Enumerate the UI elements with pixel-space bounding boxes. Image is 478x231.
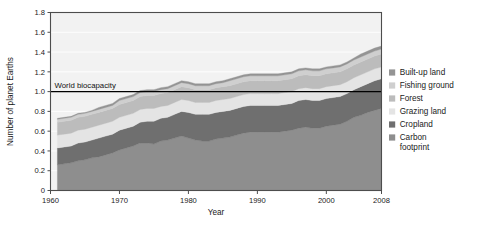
- legend-label: Forest: [400, 94, 424, 103]
- y-tick-label: 1.4: [34, 48, 45, 57]
- legend-swatch: [389, 82, 395, 88]
- x-tick-label: 1980: [180, 196, 197, 205]
- ecological-footprint-chart: World biocapacity00.20.40.60.81.01.21.41…: [0, 0, 478, 231]
- x-tick-label: 1970: [111, 196, 128, 205]
- x-tick-label: 2008: [373, 196, 390, 205]
- y-tick-label: 0: [41, 186, 45, 195]
- y-tick-label: 0.2: [34, 166, 45, 175]
- legend-swatch: [389, 69, 395, 75]
- legend-swatch: [389, 134, 395, 140]
- chart-canvas: World biocapacity00.20.40.60.81.01.21.41…: [0, 0, 478, 231]
- y-tick-label: 0.4: [34, 147, 45, 156]
- y-tick-label: 1.2: [34, 68, 45, 77]
- legend-label: Fishing ground: [400, 81, 455, 90]
- y-tick-label: 0.8: [34, 107, 45, 116]
- y-tick-label: 1.6: [34, 28, 45, 37]
- y-tick-label: 0.6: [34, 127, 45, 136]
- y-tick-label: 1.8: [34, 8, 45, 17]
- y-tick-label: 1.0: [34, 87, 45, 96]
- legend-swatch: [389, 108, 395, 114]
- x-tick-label: 2000: [318, 196, 335, 205]
- legend-label: Cropland: [400, 120, 434, 129]
- x-axis-title: Year: [208, 208, 225, 217]
- x-tick-label: 1960: [42, 196, 59, 205]
- world-biocapacity-label: World biocapacity: [55, 81, 116, 90]
- legend-label: Carbon: [400, 133, 427, 142]
- y-axis-title: Number of planet Earths: [6, 57, 15, 146]
- legend-label-cont: footprint: [400, 143, 430, 152]
- legend-label: Built-up land: [400, 68, 446, 77]
- x-tick-label: 1990: [249, 196, 266, 205]
- legend-swatch: [389, 121, 395, 127]
- legend-label: Grazing land: [400, 107, 447, 116]
- legend-swatch: [389, 95, 395, 101]
